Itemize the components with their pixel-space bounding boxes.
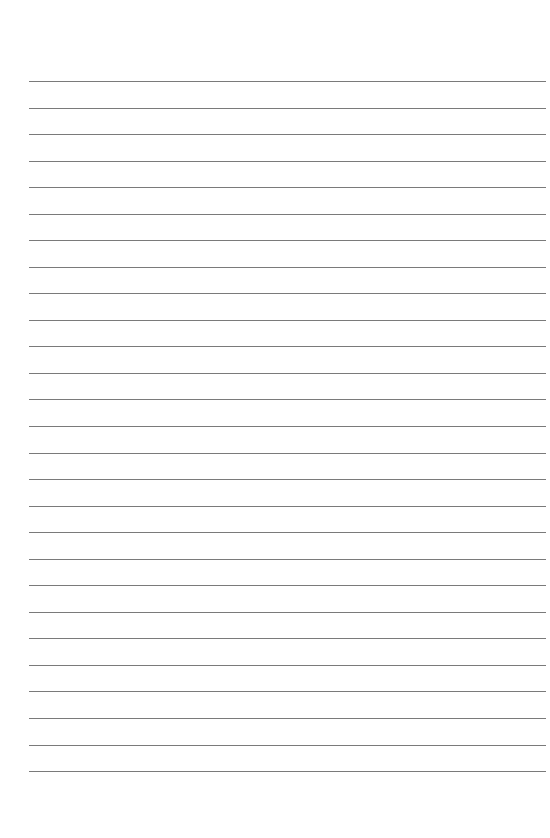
ruled-line bbox=[29, 506, 546, 507]
ruled-line bbox=[29, 771, 546, 772]
ruled-line bbox=[29, 108, 546, 109]
ruled-line bbox=[29, 638, 546, 639]
ruled-line bbox=[29, 532, 546, 533]
lined-paper-page bbox=[0, 0, 550, 838]
ruled-line bbox=[29, 426, 546, 427]
ruled-line bbox=[29, 665, 546, 666]
ruled-line bbox=[29, 267, 546, 268]
ruled-line bbox=[29, 187, 546, 188]
ruled-line bbox=[29, 453, 546, 454]
ruled-line bbox=[29, 399, 546, 400]
ruled-line bbox=[29, 745, 546, 746]
ruled-line bbox=[29, 346, 546, 347]
ruled-line bbox=[29, 559, 546, 560]
ruled-line bbox=[29, 240, 546, 241]
ruled-line bbox=[29, 161, 546, 162]
ruled-line bbox=[29, 293, 546, 294]
ruled-line bbox=[29, 585, 546, 586]
ruled-line bbox=[29, 214, 546, 215]
ruled-line bbox=[29, 718, 546, 719]
ruled-line bbox=[29, 373, 546, 374]
ruled-line bbox=[29, 479, 546, 480]
ruled-line bbox=[29, 81, 546, 82]
ruled-line bbox=[29, 134, 546, 135]
ruled-line bbox=[29, 612, 546, 613]
ruled-line bbox=[29, 320, 546, 321]
ruled-line bbox=[29, 691, 546, 692]
